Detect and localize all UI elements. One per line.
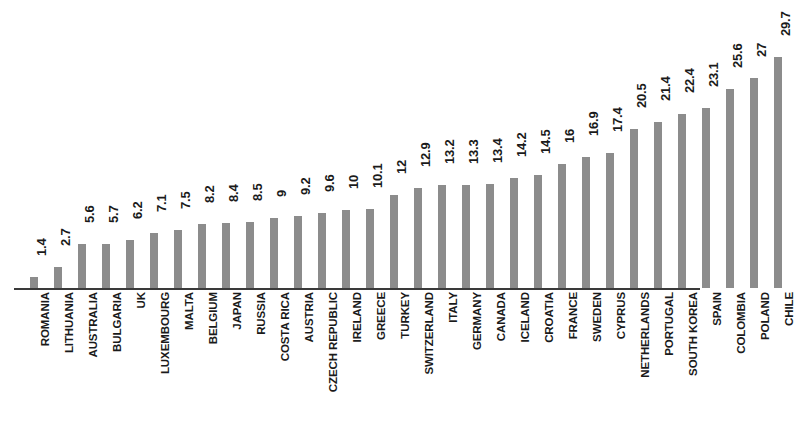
- category-label-slot: ICELAND: [502, 292, 526, 427]
- bar[interactable]: [222, 223, 230, 288]
- bar[interactable]: [702, 108, 710, 288]
- category-label-slot: AUSTRIA: [286, 292, 310, 427]
- category-label-slot: SPAIN: [694, 292, 718, 427]
- bar[interactable]: [486, 184, 494, 288]
- category-label-slot: GERMANY: [454, 292, 478, 427]
- category-label-slot: AUSTRALIA: [70, 292, 94, 427]
- category-label-slot: ITALY: [430, 292, 454, 427]
- bar[interactable]: [174, 230, 182, 288]
- category-label-slot: UK: [118, 292, 142, 427]
- bar-slot: 14.5: [526, 0, 550, 288]
- bar-slot: 7.5: [166, 0, 190, 288]
- bar[interactable]: [390, 195, 398, 288]
- bar-slot: 17.4: [598, 0, 622, 288]
- category-label-slot: CHILE: [766, 292, 790, 427]
- category-label-slot: CANADA: [478, 292, 502, 427]
- category-axis-labels: ROMANIALITHUANIAAUSTRALIABULGARIAUKLUXEM…: [14, 292, 714, 427]
- category-label-slot: IRELAND: [334, 292, 358, 427]
- category-label-slot: CROATIA: [526, 292, 550, 427]
- category-label-slot: FRANCE: [550, 292, 574, 427]
- category-label-slot: BULGARIA: [94, 292, 118, 427]
- bar[interactable]: [558, 164, 566, 288]
- bar-slot: 1.4: [22, 0, 46, 288]
- bar-value-label: 29.7: [778, 11, 793, 36]
- bar-slot: 16.9: [574, 0, 598, 288]
- category-label-slot: SOUTH KOREA: [670, 292, 694, 427]
- category-label-slot: MALTA: [166, 292, 190, 427]
- category-label-slot: LUXEMBOURG: [142, 292, 166, 427]
- bar-slot: 5.7: [94, 0, 118, 288]
- bar-slot: 12: [382, 0, 406, 288]
- bar[interactable]: [198, 224, 206, 288]
- bar[interactable]: [534, 175, 542, 288]
- plot-area: 1.42.75.65.76.27.17.58.28.48.599.29.6101…: [14, 0, 714, 288]
- bar-slot: 9.2: [286, 0, 310, 288]
- bar[interactable]: [342, 210, 350, 288]
- bar[interactable]: [126, 240, 134, 288]
- bar[interactable]: [750, 78, 758, 288]
- bar-slot: 13.3: [454, 0, 478, 288]
- bar-slot: 9: [262, 0, 286, 288]
- category-label-slot: BELGIUM: [190, 292, 214, 427]
- bar-slot: 8.2: [190, 0, 214, 288]
- category-label-slot: ROMANIA: [22, 292, 46, 427]
- category-label-slot: TURKEY: [382, 292, 406, 427]
- bar[interactable]: [438, 185, 446, 288]
- bar-slot: 2.7: [46, 0, 70, 288]
- bar-slot: 14.2: [502, 0, 526, 288]
- bar-slot: 22.4: [670, 0, 694, 288]
- bar[interactable]: [606, 153, 614, 288]
- bar-slot: 8.4: [214, 0, 238, 288]
- bar-slot: 23.1: [694, 0, 718, 288]
- category-label-slot: JAPAN: [214, 292, 238, 427]
- bar-slot: 10.1: [358, 0, 382, 288]
- bar[interactable]: [414, 188, 422, 288]
- bar-slot: 8.5: [238, 0, 262, 288]
- bar-slot: 6.2: [118, 0, 142, 288]
- category-label-slot: SWEDEN: [574, 292, 598, 427]
- bar[interactable]: [774, 57, 782, 288]
- bar-slot: 5.6: [70, 0, 94, 288]
- category-label-slot: COLOMBIA: [718, 292, 742, 427]
- bar-slot: 13.4: [478, 0, 502, 288]
- bar[interactable]: [246, 222, 254, 288]
- bar[interactable]: [54, 267, 62, 288]
- category-label-slot: SWITZERLAND: [406, 292, 430, 427]
- bar-slot: 16: [550, 0, 574, 288]
- bar[interactable]: [102, 244, 110, 288]
- category-label-slot: PORTUGAL: [646, 292, 670, 427]
- bar[interactable]: [270, 218, 278, 288]
- bar[interactable]: [294, 216, 302, 288]
- bar[interactable]: [150, 233, 158, 288]
- bar[interactable]: [678, 114, 686, 288]
- category-label-slot: RUSSIA: [238, 292, 262, 427]
- category-label-slot: CZECH REPUBLIC: [310, 292, 334, 427]
- bar-slot: 25.6: [718, 0, 742, 288]
- bar-slot: 20.5: [622, 0, 646, 288]
- bar-slot: 12.9: [406, 0, 430, 288]
- x-axis-line: [14, 288, 700, 290]
- bar-slot: 7.1: [142, 0, 166, 288]
- bar[interactable]: [630, 129, 638, 288]
- category-label-slot: NETHERLANDS: [622, 292, 646, 427]
- bar-slot: 9.6: [310, 0, 334, 288]
- bar[interactable]: [654, 122, 662, 288]
- bar-slot: 29.7: [766, 0, 790, 288]
- bar[interactable]: [318, 213, 326, 288]
- bar-slot: 10: [334, 0, 358, 288]
- bar[interactable]: [30, 277, 38, 288]
- bar[interactable]: [582, 157, 590, 288]
- bar-slot: 13.2: [430, 0, 454, 288]
- bar[interactable]: [510, 178, 518, 288]
- category-label-slot: LITHUANIA: [46, 292, 70, 427]
- bar[interactable]: [366, 209, 374, 288]
- category-label-slot: POLAND: [742, 292, 766, 427]
- category-label-slot: GREECE: [358, 292, 382, 427]
- bar[interactable]: [726, 89, 734, 288]
- category-label-slot: CYPRUS: [598, 292, 622, 427]
- bar[interactable]: [462, 185, 470, 288]
- category-label: CHILE: [783, 292, 795, 326]
- category-label-slot: COSTA RICA: [262, 292, 286, 427]
- bar[interactable]: [78, 244, 86, 288]
